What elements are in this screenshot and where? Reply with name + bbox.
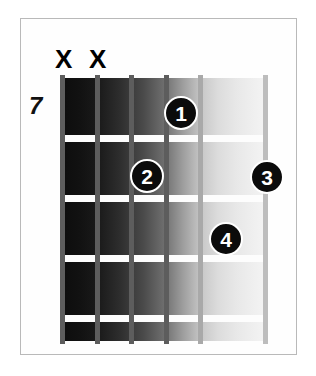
string-line-5 bbox=[95, 75, 100, 344]
finger-dot-3-label: 3 bbox=[261, 167, 273, 188]
string-line-6 bbox=[60, 75, 65, 344]
finger-dot-4-label: 4 bbox=[220, 229, 232, 250]
muted-string-marker-5: X bbox=[89, 46, 106, 72]
string-line-2 bbox=[198, 75, 203, 344]
chord-diagram-canvas: 7 X X 1 2 3 4 bbox=[0, 0, 316, 376]
string-line-4 bbox=[129, 75, 134, 344]
finger-dot-2-label: 2 bbox=[141, 166, 153, 187]
finger-dot-4: 4 bbox=[209, 222, 243, 256]
fret-position-label: 7 bbox=[29, 94, 42, 118]
muted-string-marker-6: X bbox=[55, 46, 72, 72]
finger-dot-2: 2 bbox=[130, 159, 164, 193]
string-line-1 bbox=[263, 75, 268, 344]
finger-dot-1: 1 bbox=[164, 96, 198, 130]
finger-dot-3: 3 bbox=[250, 160, 284, 194]
finger-dot-1-label: 1 bbox=[175, 103, 187, 124]
